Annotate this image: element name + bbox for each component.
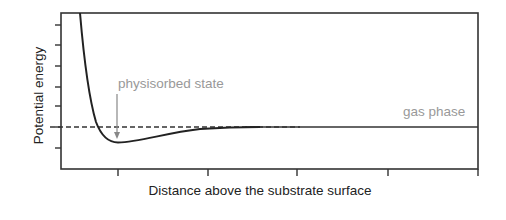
x-axis-ticks — [118, 169, 478, 176]
physisorbed-state-label: physisorbed state — [118, 76, 224, 91]
physisorbed-arrow — [114, 94, 120, 139]
plot-frame — [61, 13, 478, 169]
y-axis-label: Potential energy — [31, 40, 46, 152]
potential-energy-chart: physisorbed state gas phase Distance abo… — [0, 0, 506, 220]
y-axis-ticks — [55, 25, 61, 148]
gas-phase-label: gas phase — [403, 104, 465, 119]
x-axis-label: Distance above the substrate surface — [140, 183, 380, 198]
